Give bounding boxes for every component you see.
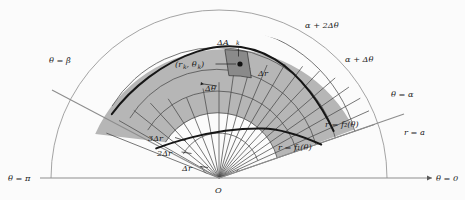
label-cell-delta-r: Δr: [257, 68, 269, 78]
label-delta-A-k: ΔA k: [216, 37, 240, 47]
label-alpha-plus-dtheta: α + Δθ: [345, 54, 374, 64]
svg-text:k: k: [236, 39, 240, 46]
label-origin: O: [215, 185, 222, 195]
label-delta-r: Δr: [181, 163, 193, 173]
label-theta-pi: θ = π: [8, 173, 31, 183]
label-r-equals-f1: r = f₁(θ): [278, 142, 312, 152]
label-theta-zero: θ = 0: [436, 173, 458, 183]
label-r-equals-f2: r = f₂(θ): [325, 119, 359, 129]
svg-text:): ): [200, 59, 204, 69]
label-r-equals-a: r = a: [404, 127, 425, 137]
svg-text:(r: (r: [175, 59, 183, 69]
svg-text:ΔA: ΔA: [216, 37, 229, 47]
label-theta-alpha: θ = α: [391, 89, 414, 99]
polar-region-diagram: θ = π θ = 0 θ = β θ = α α + 2Δθ α + Δθ r…: [0, 0, 465, 200]
svg-text:, θ: , θ: [187, 59, 197, 69]
label-delta-theta: Δθ: [204, 83, 216, 93]
sample-point-dot: [237, 61, 242, 66]
label-alpha-plus-2dtheta: α + 2Δθ: [305, 20, 339, 30]
label-theta-beta: θ = β: [49, 55, 71, 65]
label-three-delta-r: 3Δr: [148, 133, 164, 143]
label-two-delta-r: 2Δr: [156, 148, 173, 158]
